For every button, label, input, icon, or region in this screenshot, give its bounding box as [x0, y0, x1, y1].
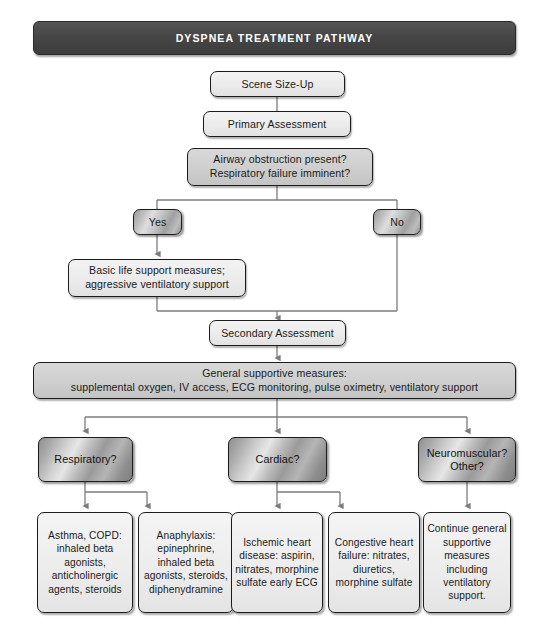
node-label-line2: Other? — [450, 460, 484, 473]
node-secondary-assessment[interactable]: Secondary Assessment — [209, 320, 346, 346]
node-treatment-anaphylaxis[interactable]: Anaphylaxis: epinephrine, inhaled beta a… — [138, 512, 234, 613]
node-treatment-continue-supportive[interactable]: Continue general supportive measures inc… — [423, 512, 511, 613]
node-label-line1: General supportive measures: — [202, 367, 347, 381]
node-label-line2: aggressive ventilatory support — [85, 278, 229, 292]
node-label: Ischemic heart disease: aspirin, nitrate… — [235, 536, 319, 590]
node-label-line1: Basic life support measures; — [89, 264, 225, 278]
node-label: Congestive heart failure: nitrates, diur… — [332, 536, 416, 590]
node-label: Cardiac? — [255, 453, 299, 466]
node-label-line2: Respiratory failure imminent? — [210, 167, 351, 181]
node-category-neuromuscular[interactable]: Neuromuscular? Other? — [418, 437, 516, 482]
node-label: Yes — [149, 216, 167, 229]
node-label: Secondary Assessment — [221, 327, 334, 340]
node-branch-no[interactable]: No — [373, 209, 421, 235]
node-scene-size-up[interactable]: Scene Size-Up — [210, 71, 345, 97]
node-treatment-congestive-heart-failure[interactable]: Congestive heart failure: nitrates, diur… — [328, 512, 420, 613]
node-label-line2: supplemental oxygen, IV access, ECG moni… — [71, 381, 478, 395]
node-category-respiratory[interactable]: Respiratory? — [38, 437, 133, 482]
node-branch-yes[interactable]: Yes — [133, 209, 182, 235]
node-category-cardiac[interactable]: Cardiac? — [228, 437, 327, 482]
node-airway-decision[interactable]: Airway obstruction present? Respiratory … — [187, 148, 373, 186]
node-treatment-asthma-copd[interactable]: Asthma, COPD: inhaled beta agonists, ant… — [37, 512, 133, 613]
node-label: Primary Assessment — [228, 118, 326, 131]
node-label-line1: Airway obstruction present? — [213, 153, 346, 167]
node-label: Respiratory? — [54, 453, 116, 466]
pathway-title-banner: DYSPNEA TREATMENT PATHWAY — [33, 21, 516, 55]
node-label: No — [390, 216, 404, 229]
node-treatment-ischemic-heart-disease[interactable]: Ischemic heart disease: aspirin, nitrate… — [231, 512, 323, 613]
node-label: Continue general supportive measures inc… — [427, 522, 507, 603]
node-label: Scene Size-Up — [242, 78, 314, 91]
page-title: DYSPNEA TREATMENT PATHWAY — [176, 32, 374, 44]
node-label: Anaphylaxis: epinephrine, inhaled beta a… — [142, 529, 230, 596]
node-general-supportive-measures[interactable]: General supportive measures: supplementa… — [33, 362, 516, 399]
node-label: Asthma, COPD: inhaled beta agonists, ant… — [41, 529, 129, 596]
flowchart-canvas: DYSPNEA TREATMENT PATHWAY Scene Size-Up … — [0, 0, 547, 631]
node-label-line1: Neuromuscular? — [427, 447, 508, 460]
node-primary-assessment[interactable]: Primary Assessment — [203, 111, 351, 137]
node-basic-life-support[interactable]: Basic life support measures; aggressive … — [68, 259, 246, 297]
